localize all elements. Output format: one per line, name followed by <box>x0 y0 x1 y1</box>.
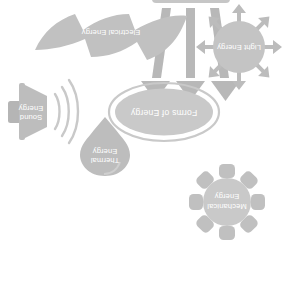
forms-of-energy-diagram: Mechanical Energy Thermal Energy <box>0 0 283 286</box>
diagram-canvas: Mechanical Energy Thermal Energy <box>0 0 283 286</box>
node-label-electrical: Electrical Energy <box>82 28 141 37</box>
sound-wave-arc-1 <box>55 94 60 129</box>
gear-tooth-e <box>189 194 203 210</box>
gear-tooth-s <box>219 164 235 178</box>
node-label-sound-line1: Sound <box>20 113 42 122</box>
node-sound-energy[interactable]: Sound Energy <box>8 80 78 143</box>
node-label-thermal-line2: Energy <box>93 147 118 156</box>
node-label-sound-line2: Energy <box>19 104 44 113</box>
node-label-thermal-line1: Thermal <box>91 156 120 165</box>
node-label-light: Light Energy <box>217 43 261 52</box>
node-label-mechanical-line2: Energy <box>215 192 240 201</box>
node-mechanical-energy[interactable]: Mechanical Energy <box>189 164 265 240</box>
sound-wave-arc-3 <box>69 80 78 143</box>
gear-tooth-n <box>219 226 235 240</box>
node-thermal-energy[interactable]: Thermal Energy <box>80 117 130 176</box>
diagram-rotor: Mechanical Energy Thermal Energy <box>0 0 283 286</box>
center-label: Forms of Energy <box>130 108 197 118</box>
arrow-shaft-middle <box>186 8 195 78</box>
node-light-energy[interactable]: Light Energy <box>196 4 282 90</box>
node-label-mechanical-line1: Mechanical <box>207 202 247 211</box>
gear-tooth-w <box>251 194 265 210</box>
three-arrows-crossbar <box>152 0 230 3</box>
center-node-forms-of-energy[interactable]: Forms of Energy <box>109 83 219 141</box>
sound-wave-arcs <box>55 80 78 143</box>
sound-wave-arc-2 <box>62 87 69 136</box>
